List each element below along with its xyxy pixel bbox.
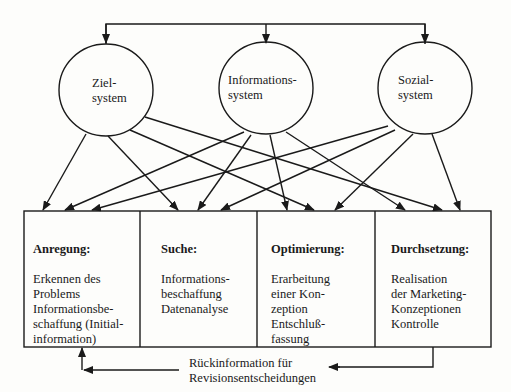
feedback-label: Rückinformation für Revisionsentscheidun… bbox=[189, 356, 316, 386]
feedback-label-line2: Revisionsentscheidungen bbox=[189, 371, 316, 386]
edge-sozial-phase4 bbox=[432, 134, 460, 210]
node-informations-label-line1: Informations- bbox=[228, 73, 297, 88]
phase-durchsetzung-title: Durchsetzung: bbox=[391, 242, 469, 257]
edge-informations-phase1 bbox=[65, 132, 244, 210]
edge-informations-phase3 bbox=[270, 135, 287, 210]
edge-ziel-phase2 bbox=[108, 136, 178, 210]
phase-anregung-body: Erkennen des Problems Informationsbe- sc… bbox=[33, 272, 123, 346]
node-ziel-label: Ziel- system bbox=[92, 76, 127, 106]
node-sozial-label-line1: Sozial- bbox=[398, 73, 433, 88]
phase-optimierung: Optimierung: Erarbeitung einer Kon- zept… bbox=[271, 227, 345, 347]
feedback-line-right bbox=[330, 347, 433, 367]
node-informations-label: Informations- system bbox=[228, 73, 297, 103]
node-ziel-label-line1: Ziel- bbox=[92, 76, 127, 91]
node-ziel-label-line2: system bbox=[92, 91, 127, 106]
phase-anregung: Anregung: Erkennen des Problems Informat… bbox=[33, 227, 123, 347]
edge-sozial-phase2 bbox=[221, 130, 395, 210]
phase-suche-body: Informations- beschaffung Datenanalyse bbox=[161, 272, 230, 316]
edge-informations-phase4 bbox=[286, 132, 405, 210]
phase-suche: Suche: Informations- beschaffung Datenan… bbox=[161, 227, 230, 317]
phase-anregung-title: Anregung: bbox=[33, 242, 123, 257]
node-sozial-label: Sozial- system bbox=[398, 73, 433, 103]
edge-ziel-phase4 bbox=[145, 117, 442, 210]
phase-durchsetzung-body: Realisation der Marketing- Konzeptionen … bbox=[391, 272, 466, 331]
edge-sozial-phase1 bbox=[92, 126, 388, 210]
phase-optimierung-title: Optimierung: bbox=[271, 242, 345, 257]
feedback-label-line1: Rückinformation für bbox=[189, 356, 316, 371]
node-sozial-label-line2: system bbox=[398, 88, 433, 103]
phase-suche-title: Suche: bbox=[161, 242, 230, 257]
phase-durchsetzung: Durchsetzung: Realisation der Marketing-… bbox=[391, 227, 469, 332]
phase-optimierung-body: Erarbeitung einer Kon- zeption Entschluß… bbox=[271, 272, 330, 346]
edge-ziel-phase1 bbox=[43, 134, 86, 210]
node-informations-label-line2: system bbox=[228, 88, 297, 103]
